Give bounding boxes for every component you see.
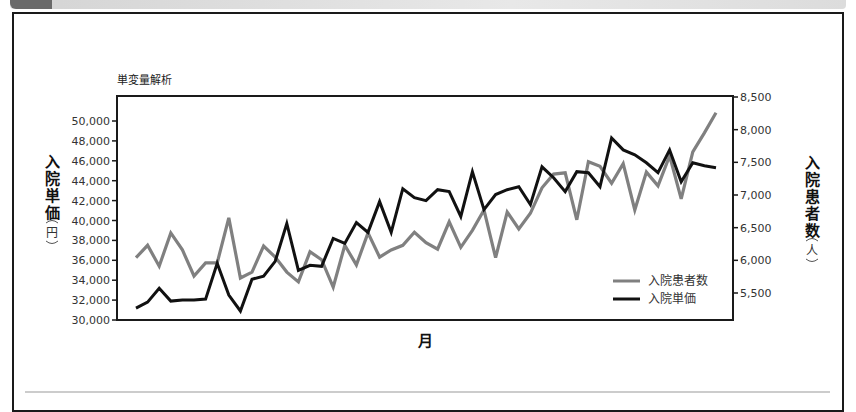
axis-title-char: 価 xyxy=(44,204,60,222)
right-tick-label: 6,500 xyxy=(740,222,772,235)
chart-title: 単変量解析 xyxy=(117,73,172,87)
legend-label-patients: 入院患者数 xyxy=(648,273,708,288)
axis-title-char: 入 xyxy=(45,153,60,171)
x-axis-title: 月 xyxy=(417,332,433,350)
right-tick-label: 8,500 xyxy=(740,91,772,104)
axis-unit: 人 xyxy=(806,244,818,258)
axis-title-char: 入 xyxy=(805,154,820,172)
left-tick-label: 48,000 xyxy=(72,135,111,148)
right-tick-label: 7,000 xyxy=(740,189,772,202)
axis-unit: 円 xyxy=(46,226,58,240)
right-tick-label: 8,000 xyxy=(740,124,772,137)
axis-title-char: 院 xyxy=(805,171,820,189)
right-tick-label: 5,500 xyxy=(740,287,772,300)
left-tick-label: 38,000 xyxy=(72,234,111,247)
left-tick-label: 36,000 xyxy=(72,254,111,267)
unit-bracket-bottom xyxy=(806,259,818,262)
left-tick-label: 50,000 xyxy=(72,115,111,128)
left-axis: 30,00032,00034,00036,00038,00040,00042,0… xyxy=(72,115,118,327)
axis-title-char: 単 xyxy=(45,187,60,205)
left-tick-label: 46,000 xyxy=(72,155,111,168)
left-tick-label: 32,000 xyxy=(72,294,111,307)
right-axis-title: 入院患者数人 xyxy=(805,154,821,262)
axis-title-char: 院 xyxy=(45,170,60,188)
left-tick-label: 34,000 xyxy=(72,274,111,287)
left-tick-label: 30,000 xyxy=(72,314,111,327)
legend-label-unit-price: 入院単価 xyxy=(648,292,696,306)
unit-bracket-bottom xyxy=(46,241,58,244)
left-tick-label: 42,000 xyxy=(72,195,111,208)
axis-title-char: 患 xyxy=(805,188,820,206)
right-tick-label: 6,000 xyxy=(740,254,772,267)
left-tick-label: 44,000 xyxy=(72,175,111,188)
series-line-unit-price xyxy=(136,138,716,311)
right-axis: 5,5006,0006,5007,0007,5008,0008,500 xyxy=(733,91,772,300)
axis-title-char: 者 xyxy=(805,205,820,223)
left-axis-title: 入院単価円 xyxy=(44,153,60,244)
legend: 入院患者数 入院単価 xyxy=(613,273,708,306)
right-tick-label: 7,500 xyxy=(740,156,772,169)
left-tick-label: 40,000 xyxy=(72,215,111,228)
axis-title-char: 数 xyxy=(805,222,821,240)
